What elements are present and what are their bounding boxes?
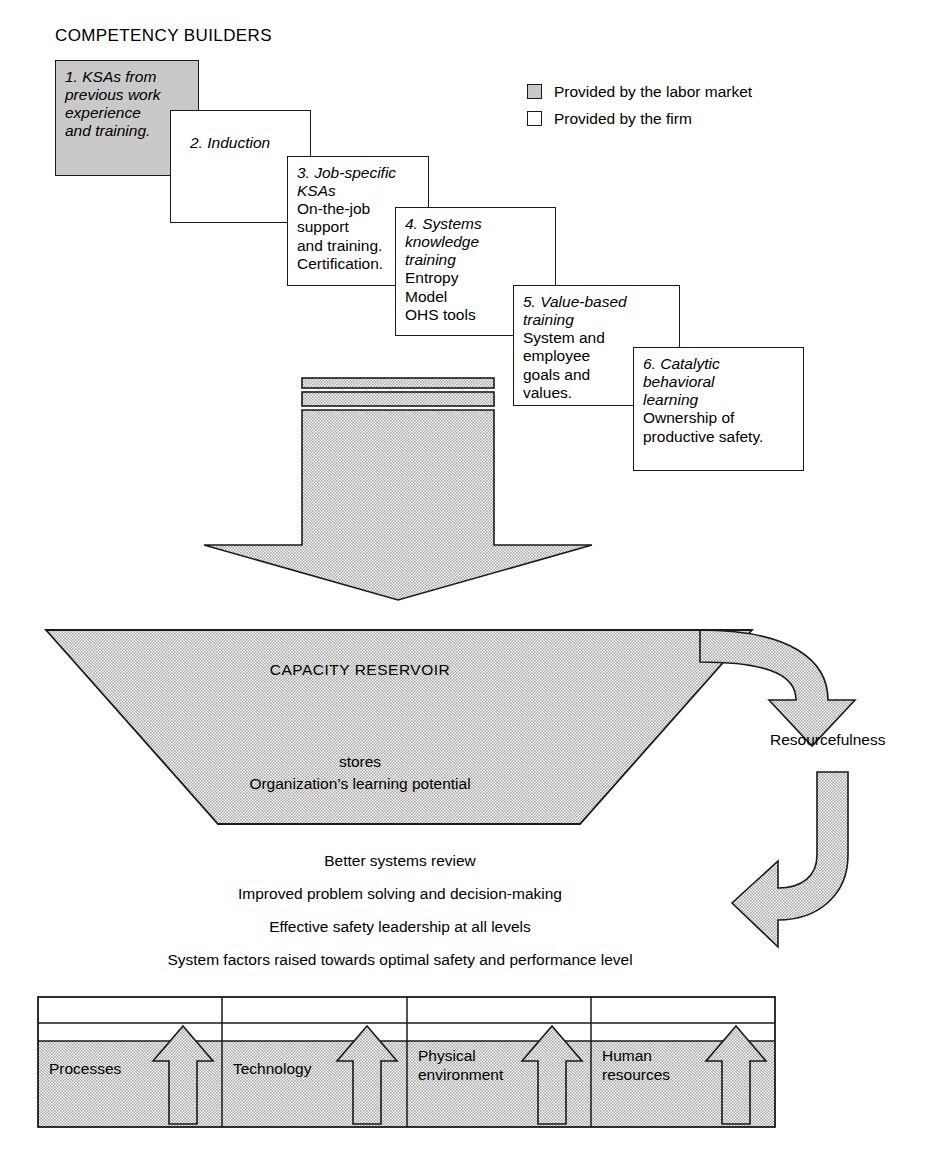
competency-box-body: Ownership of productive safety. — [643, 409, 795, 445]
competency-box-title: 4. Systems knowledge training — [405, 215, 547, 269]
outcome-line-4: System factors raised towards optimal sa… — [0, 951, 800, 969]
competency-box-title: 3. Job-specific KSAs — [297, 164, 420, 200]
system-factor-label-processes: Processes — [49, 1060, 121, 1079]
factor-arrow-technology-icon — [337, 1026, 397, 1124]
legend-swatch-shaded-icon — [527, 84, 542, 99]
competency-box-title: 2. Induction — [190, 134, 302, 152]
competency-box-title: 5. Value-based training — [523, 293, 671, 329]
legend-item-firm: Provided by the firm — [527, 105, 752, 132]
factor-arrow-physical-environment-icon — [522, 1026, 582, 1124]
system-factor-label-human-resources: Human resources — [602, 1047, 670, 1084]
outcome-line-3: Effective safety leadership at all level… — [0, 918, 800, 936]
page-title: COMPETENCY BUILDERS — [55, 26, 272, 46]
system-factor-label-technology: Technology — [233, 1060, 311, 1079]
arrow-stripe-second — [302, 392, 494, 406]
factor-arrow-human-resources-icon — [706, 1026, 766, 1124]
competency-box-6[interactable]: 6. Catalytic behavioral learning Ownersh… — [633, 347, 804, 471]
resourcefulness-label: Resourcefulness — [770, 731, 885, 749]
competency-box-title: 6. Catalytic behavioral learning — [643, 355, 795, 409]
resourcefulness-arrow-upper-icon — [700, 630, 855, 746]
capacity-reservoir-title: CAPACITY RESERVOIR — [0, 661, 720, 679]
outcome-line-1: Better systems review — [0, 852, 800, 870]
system-factor-label-physical-environment: Physical environment — [418, 1047, 503, 1084]
legend-item-labor-market: Provided by the labor market — [527, 78, 752, 105]
capacity-reservoir-subtitle: stores Organization’s learning potential — [0, 751, 720, 795]
legend-swatch-empty-icon — [527, 111, 542, 126]
legend-label: Provided by the firm — [554, 110, 692, 128]
legend-label: Provided by the labor market — [554, 83, 752, 101]
arrow-stripe-top — [302, 378, 494, 388]
outcome-line-2: Improved problem solving and decision-ma… — [0, 885, 800, 903]
diagram-canvas: COMPETENCY BUILDERS Provided by the labo… — [0, 0, 946, 1152]
capacity-inflow-arrow-icon — [204, 410, 592, 600]
legend: Provided by the labor market Provided by… — [527, 78, 752, 132]
factor-arrow-processes-icon — [153, 1026, 213, 1124]
